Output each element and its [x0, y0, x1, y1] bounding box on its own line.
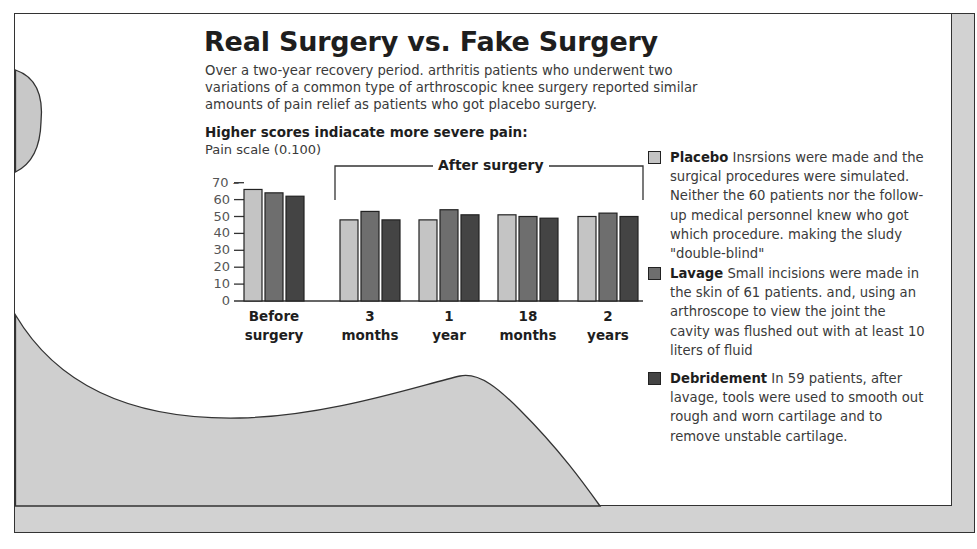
- y-tick-label: 40: [206, 226, 230, 240]
- bar-lavage: [440, 210, 458, 301]
- debridement-swatch-icon: [648, 372, 661, 385]
- after-surgery-label: After surgery: [433, 157, 549, 173]
- y-tick-label: 0: [206, 294, 230, 308]
- bar-lavage: [361, 211, 379, 301]
- y-tick-label: 10: [206, 277, 230, 291]
- legend-item-lavage: Lavage Small incisions were made in the …: [648, 264, 928, 360]
- bar-placebo: [340, 220, 358, 301]
- x-tick-label: 3months: [325, 307, 415, 345]
- y-tick-label: 60: [206, 193, 230, 207]
- lavage-swatch-icon: [648, 267, 661, 280]
- legend-name: Debridement: [670, 371, 767, 386]
- bar-lavage: [599, 213, 617, 301]
- legend-name: Placebo: [670, 150, 728, 165]
- y-tick-label: 20: [206, 260, 230, 274]
- bar-placebo: [578, 217, 596, 302]
- bar-placebo: [498, 215, 516, 301]
- y-tick-label: 50: [206, 210, 230, 224]
- y-tick-label: 30: [206, 243, 230, 257]
- x-tick-label: Beforesurgery: [229, 307, 319, 345]
- placebo-swatch-icon: [648, 151, 661, 164]
- x-tick-label: 2years: [563, 307, 653, 345]
- x-tick-label: 1year: [404, 307, 494, 345]
- bar-placebo: [244, 189, 262, 301]
- bar-lavage: [265, 193, 283, 301]
- legend-item-debridement: Debridement In 59 patients, after lavage…: [648, 369, 928, 446]
- legend-item-placebo: Placebo Insrsions were made and the surg…: [648, 148, 928, 263]
- bar-debridement: [461, 215, 479, 301]
- bar-debridement: [286, 196, 304, 301]
- bar-debridement: [540, 218, 558, 301]
- bar-debridement: [620, 217, 638, 302]
- bar-lavage: [519, 217, 537, 302]
- legend-name: Lavage: [670, 266, 723, 281]
- x-tick-label: 18months: [483, 307, 573, 345]
- bar-debridement: [382, 220, 400, 301]
- y-tick-label: 70 –: [212, 176, 248, 190]
- bar-placebo: [419, 220, 437, 301]
- legend-description: Insrsions were made and the surgical pro…: [670, 150, 924, 261]
